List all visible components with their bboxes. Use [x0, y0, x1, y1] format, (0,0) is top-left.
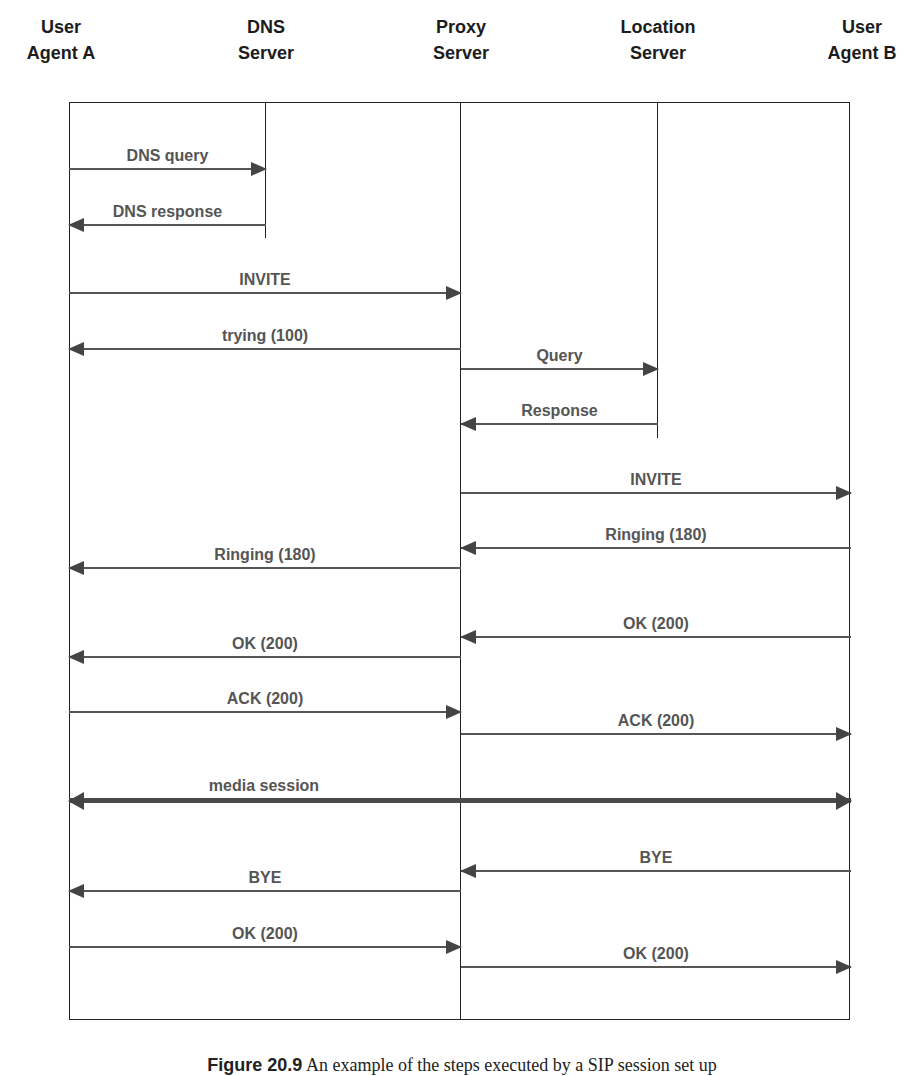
- arrow-line: [461, 423, 658, 425]
- participant-name-line2: Server: [196, 40, 336, 66]
- message-label: INVITE: [461, 471, 851, 489]
- arrow-line: [461, 368, 658, 370]
- participant-header-location-server: Location Server: [588, 14, 728, 66]
- message-label: INVITE: [69, 271, 461, 289]
- lifeline-location-server: [657, 102, 658, 438]
- participant-name-line1: User: [0, 14, 131, 40]
- arrow-line: [69, 348, 461, 350]
- arrow-line: [461, 547, 851, 549]
- participant-header-dns-server: DNS Server: [196, 14, 336, 66]
- arrow-line: [69, 168, 266, 170]
- message-label: OK (200): [69, 925, 461, 943]
- arrow-line: [69, 798, 851, 803]
- figure-label: Figure 20.9: [207, 1055, 302, 1075]
- arrow-line: [461, 870, 851, 872]
- message-label: OK (200): [461, 615, 851, 633]
- message-label: BYE: [69, 869, 461, 887]
- participant-name-line2: Server: [391, 40, 531, 66]
- arrow-line: [461, 492, 851, 494]
- participant-name-line2: Server: [588, 40, 728, 66]
- participant-name-line1: DNS: [196, 14, 336, 40]
- message-label: DNS response: [69, 203, 266, 221]
- message-label: DNS query: [69, 147, 266, 165]
- participant-name-line1: Location: [588, 14, 728, 40]
- arrow-line: [69, 890, 461, 892]
- arrow-line: [69, 567, 461, 569]
- message-label: OK (200): [69, 635, 461, 653]
- arrow-line: [69, 711, 461, 713]
- arrow-line: [461, 966, 851, 968]
- message-label: Response: [461, 402, 658, 420]
- arrow-line: [461, 636, 851, 638]
- message-label: ACK (200): [461, 712, 851, 730]
- participant-name-line1: Proxy: [391, 14, 531, 40]
- message-label: trying (100): [69, 327, 461, 345]
- figure-caption: Figure 20.9 An example of the steps exec…: [0, 1055, 924, 1076]
- arrow-line: [69, 946, 461, 948]
- arrow-line: [69, 224, 266, 226]
- arrow-line: [69, 292, 461, 294]
- message-label: BYE: [461, 849, 851, 867]
- participant-header-user-agent-a: User Agent A: [0, 14, 131, 66]
- arrow-head-right-icon: [836, 792, 852, 810]
- arrow-line: [69, 656, 461, 658]
- message-label: OK (200): [461, 945, 851, 963]
- participant-header-user-agent-b: User Agent B: [792, 14, 924, 66]
- participant-name-line1: User: [792, 14, 924, 40]
- participant-name-line2: Agent A: [0, 40, 131, 66]
- message-label: ACK (200): [69, 690, 461, 708]
- message-label: Ringing (180): [461, 526, 851, 544]
- participant-header-proxy-server: Proxy Server: [391, 14, 531, 66]
- message-label: Ringing (180): [69, 546, 461, 564]
- message-label: media session: [69, 777, 459, 795]
- participant-name-line2: Agent B: [792, 40, 924, 66]
- arrow-line: [461, 733, 851, 735]
- message-label: Query: [461, 347, 658, 365]
- figure-caption-text: An example of the steps executed by a SI…: [306, 1055, 717, 1075]
